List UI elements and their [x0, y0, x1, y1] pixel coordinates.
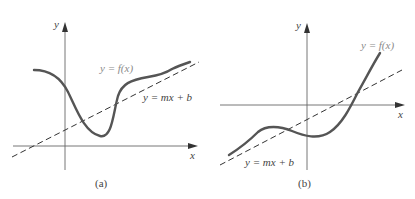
x-axis-label-a: x — [189, 149, 195, 161]
y-axis-arrow-icon — [304, 23, 310, 33]
function-curve-b — [229, 53, 380, 155]
panel-b: y x y = f(x) y = mx + b (b) — [220, 19, 405, 190]
curve-label-a: y = f(x) — [99, 62, 133, 75]
y-axis-label-b: y — [295, 19, 301, 31]
caption-a: (a) — [95, 177, 108, 190]
line-label-a: y = mx + b — [142, 91, 193, 103]
caption-b: (b) — [298, 177, 311, 190]
diagram-canvas: y x y = f(x) y = mx + b (a) y x y = f(x)… — [0, 0, 415, 199]
tangent-line-b — [220, 70, 402, 165]
y-axis-arrow-icon — [62, 22, 68, 32]
tangent-line-a — [12, 62, 199, 157]
panel-a: y x y = f(x) y = mx + b (a) — [12, 18, 199, 190]
x-axis-label-b: x — [397, 108, 403, 120]
line-label-b: y = mx + b — [244, 156, 295, 168]
curve-label-b: y = f(x) — [360, 39, 394, 52]
y-axis-label-a: y — [53, 18, 59, 30]
